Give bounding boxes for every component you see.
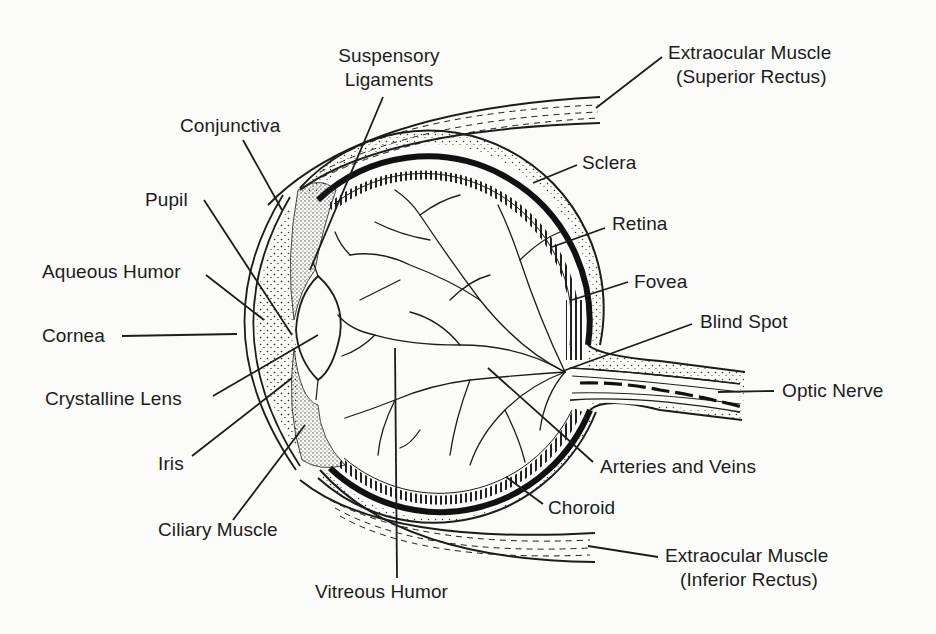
label-line: Extraocular Muscle [668,41,831,65]
label-aqueous-humor: Aqueous Humor [42,260,181,284]
label-line: Extraocular Muscle [665,544,828,568]
leader-conjunctiva [243,140,282,210]
eye-anatomy-diagram [0,0,936,634]
optic-nerve [570,345,745,420]
label-retina: Retina [612,212,668,236]
label-pupil: Pupil [145,188,188,212]
leader-vitreous-humor [395,348,397,578]
label-line: (Superior Rectus) [668,65,831,89]
label-line: (Inferior Rectus) [665,568,828,592]
leader-optic-nerve [718,391,774,392]
label-sclera: Sclera [582,151,636,175]
sclera-layer [300,131,604,345]
leader-ciliary-muscle [233,425,305,520]
label-inferior-rectus: Extraocular Muscle (Inferior Rectus) [665,544,828,592]
label-ciliary-muscle: Ciliary Muscle [158,518,278,542]
label-conjunctiva: Conjunctiva [180,114,280,138]
label-vitreous-humor: Vitreous Humor [315,580,448,604]
label-superior-rectus: Extraocular Muscle (Superior Rectus) [668,41,831,89]
eyeball [300,131,604,523]
label-crystalline-lens: Crystalline Lens [45,387,182,411]
leader-cornea [122,334,237,336]
label-line: Suspensory [327,44,451,68]
label-cornea: Cornea [42,324,105,348]
label-suspensory-ligaments: Suspensory Ligaments [327,44,451,92]
arteries-and-veins [335,190,565,465]
label-line: Ligaments [327,68,451,92]
label-choroid: Choroid [548,496,615,520]
label-iris: Iris [158,452,184,476]
label-fovea: Fovea [634,270,687,294]
label-optic-nerve: Optic Nerve [782,379,883,403]
leader-iris [192,378,292,456]
label-blind-spot: Blind Spot [700,310,788,334]
label-arteries-and-veins: Arteries and Veins [600,455,756,479]
leader-inferior-rectus [588,546,658,557]
leader-superior-rectus [596,57,662,108]
